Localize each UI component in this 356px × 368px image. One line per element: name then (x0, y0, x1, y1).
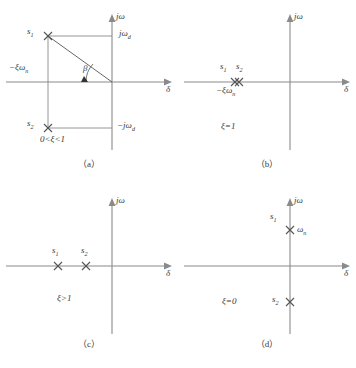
damping-condition-label: 0<ξ<1 (40, 135, 65, 144)
imag-tick-label-negative: −jωd (117, 121, 135, 132)
panel-caption-b: （b） (178, 160, 356, 169)
imag-axis-label: jω (294, 12, 303, 21)
pole-label-s2: s2 (236, 62, 243, 73)
imag-axis-label: jω (116, 196, 125, 205)
imag-axis-arrowhead (109, 14, 116, 22)
pole-label-s1: s1 (270, 212, 277, 223)
real-axis-label: δ (166, 269, 170, 278)
pole-label-s2: s2 (27, 119, 34, 130)
imag-axis-arrowhead (109, 198, 116, 206)
real-axis-label: δ (344, 85, 348, 94)
imag-axis-arrowhead (287, 14, 294, 22)
real-axis-label: δ (166, 85, 170, 94)
real-axis-label: δ (344, 269, 348, 278)
pole-label-s1: s1 (27, 27, 34, 38)
panel-b: s1 s2 −ξωn jω δ ξ=1 （b） (178, 0, 356, 184)
pole-label-s1: s1 (220, 62, 227, 73)
figure-root: s1 s2 jωd −jωd −ξωn β jω δ 0<ξ<1 （a） (0, 0, 356, 368)
real-tick-label: −ξωn (216, 86, 235, 97)
pole-label-s1: s1 (52, 246, 59, 257)
panel-d: s1 ωn s2 jω δ ξ=0 （d） (178, 184, 356, 368)
imag-tick-label-positive: jωd (119, 29, 131, 40)
panel-b-axes (178, 0, 356, 184)
panel-caption-d: （d） (178, 340, 356, 349)
imag-axis-label: jω (294, 196, 303, 205)
radius-vector-line (48, 36, 112, 82)
damping-condition-label: ξ=1 (221, 122, 235, 131)
pole-label-s2: s2 (272, 295, 279, 306)
panel-caption-c: （c） (0, 340, 178, 349)
imag-axis-arrowhead (287, 198, 294, 206)
real-tick-label: −ξωn (9, 63, 28, 74)
pole-label-s2: s2 (81, 246, 88, 257)
beta-angle-arrowhead (81, 76, 88, 82)
imag-axis-label: jω (116, 12, 125, 21)
panel-a: s1 s2 jωd −jωd −ξωn β jω δ 0<ξ<1 （a） (0, 0, 178, 184)
panel-c: s1 s2 jω δ ξ>1 （c） (0, 184, 178, 368)
damping-condition-label: ξ>1 (57, 294, 71, 303)
damping-condition-label: ξ=0 (222, 297, 236, 306)
panel-caption-a: （a） (0, 160, 178, 169)
imag-tick-label: ωn (297, 225, 306, 236)
beta-angle-label: β (83, 64, 87, 73)
